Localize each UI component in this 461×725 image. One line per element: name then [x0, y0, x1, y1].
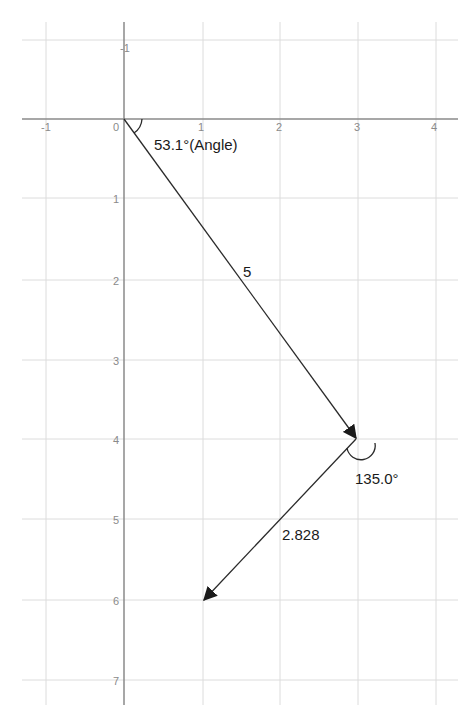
x-tick-label: 4 [431, 121, 437, 133]
grid [22, 22, 458, 705]
y-tick-label: 3 [113, 355, 119, 367]
y-tick-label: 2 [113, 275, 119, 287]
y-tick-label: 6 [113, 595, 119, 607]
y-tick-label: 7 [113, 675, 119, 687]
x-tick-label: 2 [276, 121, 282, 133]
angle-origin-label: 53.1°(Angle) [154, 136, 238, 153]
angle-turn-arc [347, 443, 375, 460]
y-tick-label: -1 [120, 42, 130, 54]
y-tick-label: 5 [113, 514, 119, 526]
angle-turn-label: 135.0° [355, 470, 399, 487]
y-tick-label: 1 [113, 193, 119, 205]
x-tick-label: 1 [198, 121, 204, 133]
vector-diagram: -1 0 1 2 3 4 -1 1 2 3 4 5 6 7 53.1°(Angl… [0, 0, 461, 725]
x-tick-label: -1 [41, 121, 51, 133]
x-tick-label: 3 [354, 121, 360, 133]
angle-origin-arc [134, 119, 142, 133]
vector-1-length-label: 5 [243, 263, 251, 280]
vector-1-arrow [124, 119, 356, 438]
vector-2-length-label: 2.828 [282, 526, 320, 543]
y-tick-label: 4 [113, 434, 119, 446]
x-tick-label: 0 [113, 121, 119, 133]
